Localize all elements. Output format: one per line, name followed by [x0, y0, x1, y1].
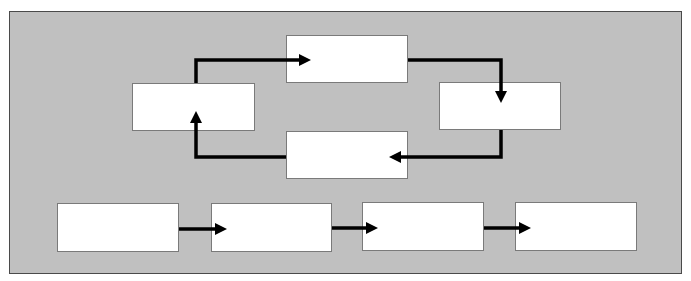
sequence-node-3	[362, 202, 484, 251]
sequence-node-4	[515, 202, 637, 251]
sequence-node-1	[57, 203, 179, 252]
cycle-node-top	[286, 35, 408, 83]
cycle-node-bottom	[286, 131, 408, 179]
cycle-node-left	[132, 83, 255, 131]
sequence-node-2	[211, 203, 332, 252]
cycle-node-right	[439, 82, 561, 130]
